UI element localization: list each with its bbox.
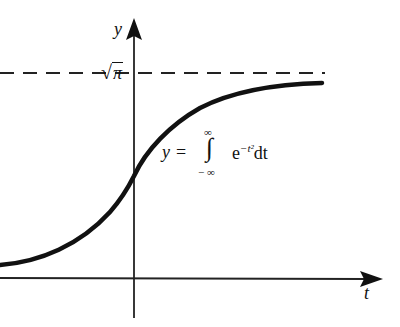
lower-limit: − ∞	[198, 167, 215, 178]
x-axis-label: t	[364, 284, 369, 302]
formula-equals: =	[176, 143, 186, 161]
integrand-exponent: −t²	[240, 142, 254, 154]
formula-lhs: y	[162, 143, 170, 161]
pi-symbol: π	[112, 62, 123, 83]
integrand-base: e	[232, 143, 240, 163]
integral-symbol: ∫	[206, 135, 213, 161]
y-axis-label: y	[114, 20, 122, 38]
differential: dt	[254, 143, 268, 163]
radical-sign: √	[101, 61, 112, 83]
x-axis	[0, 278, 366, 279]
function-curve	[0, 83, 322, 265]
asymptote-label: √π	[101, 62, 123, 82]
diagram-canvas	[0, 0, 400, 327]
integrand: e−t²dt	[232, 143, 268, 162]
